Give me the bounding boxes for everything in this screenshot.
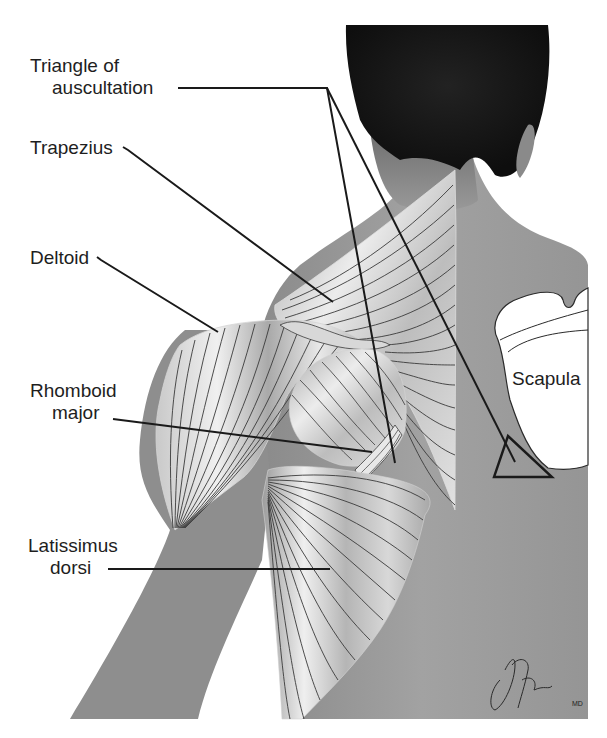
label-triangle-of-auscultation: Triangle of auscultation [30,55,153,99]
anatomy-figure: Triangle of auscultation Trapezius Delto… [0,0,607,738]
label-rhomboid-major: Rhomboid major [30,380,117,424]
label-latissimus-dorsi: Latissimus dorsi [28,535,118,579]
leader-deltoid [97,257,218,332]
label-deltoid: Deltoid [30,247,89,269]
signature-suffix: MD [572,700,583,708]
label-scapula: Scapula [512,368,581,390]
leader-trapezius [123,147,333,302]
label-trapezius: Trapezius [30,137,113,159]
